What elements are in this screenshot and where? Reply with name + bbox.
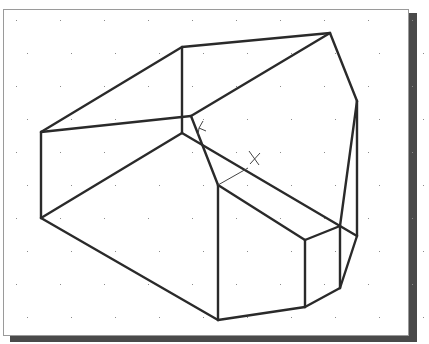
grid-dots xyxy=(16,20,424,318)
ucs-axis-line xyxy=(218,168,248,185)
ucs-y-marker-icon xyxy=(198,121,206,135)
wireframe-drawing[interactable] xyxy=(0,0,429,344)
wireframe-edges xyxy=(41,33,357,320)
ucs-icon xyxy=(198,121,260,185)
ucs-x-marker-icon xyxy=(249,151,260,165)
